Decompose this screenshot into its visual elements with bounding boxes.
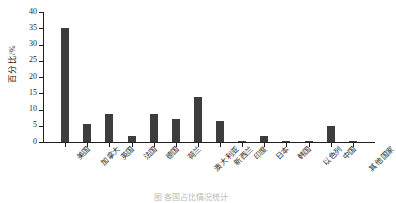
y-axis-tick: 25: [39, 61, 43, 62]
x-axis-category-label: 荷兰: [185, 144, 203, 162]
bar: [194, 97, 202, 143]
y-axis-title: 百分比/%: [5, 32, 17, 96]
y-axis-tick: 15: [39, 93, 43, 94]
y-axis-tick-label: 20: [29, 72, 37, 81]
y-axis-tick: 0: [39, 142, 43, 143]
x-axis-category-labels: 美国加拿大英国法国德国荷兰澳大利亚新西兰印度日本韩国以色列中国其他国家: [43, 144, 375, 190]
bar: [105, 114, 113, 142]
x-axis-category-label: 中国: [340, 144, 358, 162]
bar: [172, 119, 180, 142]
y-axis-tick-label: 35: [29, 23, 37, 32]
x-axis-category-label: 印度: [252, 144, 270, 162]
x-axis-category-label: 韩国: [296, 144, 314, 162]
x-axis-category-label: 法国: [141, 144, 159, 162]
y-axis-tick: 30: [39, 45, 43, 46]
bar: [260, 136, 268, 142]
y-axis-tick: 35: [39, 28, 43, 29]
bar: [349, 141, 357, 142]
y-axis-tick: 40: [39, 12, 43, 13]
y-axis-tick-label: 5: [33, 120, 37, 129]
y-axis-tick-label: 25: [29, 55, 37, 64]
y-axis-tick: 20: [39, 77, 43, 78]
x-axis-category-label: 日本: [274, 144, 292, 162]
y-axis-tick-label: 10: [29, 104, 37, 113]
y-axis-line: [43, 12, 44, 143]
y-axis-tick: 10: [39, 110, 43, 111]
y-axis-tick-label: 0: [33, 137, 37, 146]
bar: [238, 141, 246, 142]
x-axis-category-label: 德国: [163, 144, 181, 162]
y-axis-tick: 5: [39, 126, 43, 127]
y-axis-tick-label: 15: [29, 88, 37, 97]
x-axis-line: [43, 142, 375, 143]
y-axis-tick-label: 30: [29, 39, 37, 48]
bar: [327, 126, 335, 142]
bar: [305, 141, 313, 142]
figure-caption: 图 各国占比情况统计: [0, 193, 382, 203]
y-axis-tick-label: 40: [29, 7, 37, 16]
x-axis-category-label: 英国: [119, 144, 137, 162]
bar: [282, 141, 290, 142]
x-axis-category-label: 其他国家: [367, 144, 396, 173]
bar: [150, 114, 158, 142]
plot-area: 0510152025303540: [43, 12, 375, 142]
bar: [128, 136, 136, 143]
bar: [61, 28, 69, 142]
bar: [83, 124, 91, 142]
bar: [216, 121, 224, 142]
x-axis-category-label: 美国: [75, 144, 93, 162]
